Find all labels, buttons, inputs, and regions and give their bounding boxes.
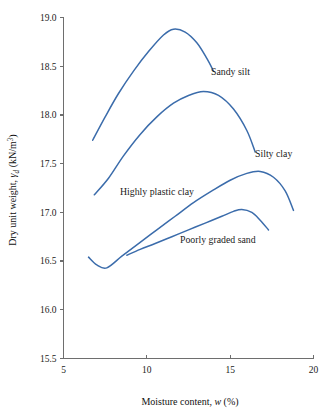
curve-label-poorly-graded-sand: Poorly graded sand [180, 234, 256, 245]
x-axis-title: Moisture content, w (%) [141, 396, 238, 408]
x-axis-title-prefix: Moisture content, [141, 396, 214, 407]
y-axis-title-unit-close: ) [7, 134, 19, 137]
curve-poorly-graded-sand [127, 209, 269, 255]
curve-label-highly-plastic-clay: Highly plastic clay [120, 186, 194, 197]
y-axis-ticks: 15.516.016.517.017.518.018.519.0 [40, 13, 64, 364]
curve-sandy-silt [93, 29, 214, 140]
y-axis-title-prefix: Dry unit weight, [7, 177, 18, 245]
y-tick-label: 18.5 [40, 62, 57, 72]
y-axis-title-unit-open: (kN/m [7, 141, 19, 170]
x-tick-label: 15 [225, 365, 235, 375]
y-tick-label: 18.0 [40, 110, 57, 120]
y-tick-label: 17.5 [40, 159, 57, 169]
y-tick-label: 16.0 [40, 305, 57, 315]
x-tick-label: 10 [142, 365, 152, 375]
compaction-curves-plot: 15.516.016.517.017.518.018.519.0 5101520… [0, 0, 331, 416]
x-axis-title-suffix: (%) [221, 396, 239, 408]
y-tick-label: 19.0 [40, 13, 57, 23]
y-axis: 15.516.016.517.017.518.018.519.0 [40, 13, 64, 364]
curve-label-sandy-silt: Sandy silt [211, 66, 250, 77]
chart-figure: 15.516.016.517.017.518.018.519.0 5101520… [0, 0, 331, 416]
x-tick-label: 20 [309, 365, 319, 375]
y-tick-label: 16.5 [40, 256, 57, 266]
y-tick-label: 17.0 [40, 208, 57, 218]
x-axis-ticks: 5101520 [61, 355, 318, 375]
x-tick-label: 5 [61, 365, 66, 375]
y-axis-title: Dry unit weight, γd (kN/m3) [7, 134, 21, 245]
y-tick-label: 15.5 [40, 354, 57, 364]
curve-label-silty-clay: Silty clay [255, 148, 292, 159]
x-axis: 5101520 [61, 355, 318, 375]
